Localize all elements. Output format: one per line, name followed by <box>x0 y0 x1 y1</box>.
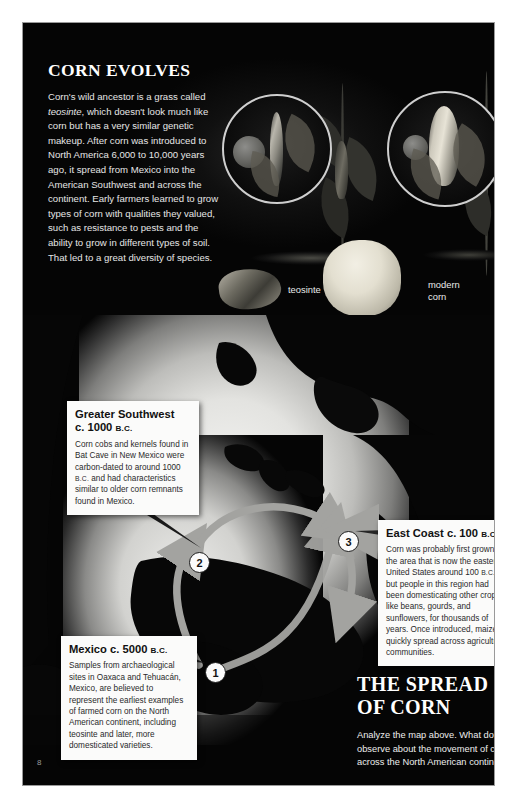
analysis-question: Analyze the map above. What do you obser… <box>357 729 495 770</box>
arrow-east-coast-southward <box>345 543 352 609</box>
callout-title-line1: Greater Southwest <box>75 408 174 420</box>
era-label: B.C. <box>150 646 167 655</box>
callout-title-line1: East Coast c. 100 <box>386 527 481 539</box>
body-segment: Corn cobs and kernels found in Bat Cave … <box>75 440 188 472</box>
callout-title-line2: c. 1000 <box>75 421 115 433</box>
spread-title-line2: OF CORN <box>357 696 451 718</box>
era-label: B.C. <box>115 424 132 433</box>
modern-corn-ear-photo <box>387 91 495 207</box>
callout-mexico: Mexico c. 5000 B.C. Samples from archaeo… <box>61 636 197 760</box>
page-title: CORN EVOLVES <box>48 60 223 81</box>
callout-title-mexico: Mexico c. 5000 B.C. <box>69 643 189 657</box>
callout-body-greater-southwest: Corn cobs and kernels found in Bat Cave … <box>75 439 191 507</box>
arrow-southwest-to-east <box>195 507 329 551</box>
era-label: B.C. <box>75 475 89 482</box>
page-wrapper: CORN EVOLVES Corn's wild ancestor is a g… <box>0 0 517 810</box>
era-label: B.C. <box>481 530 495 539</box>
corn-evolves-body: Corn's wild ancestor is a grass called t… <box>48 90 223 265</box>
callout-greater-southwest: Greater Southwestc. 1000 B.C. Corn cobs … <box>67 401 199 515</box>
teosinte-italic: teosinte <box>48 106 82 117</box>
body-text-part1: Corn's wild ancestor is a grass called <box>48 91 206 102</box>
arrow-mexico-to-east-coast <box>211 537 333 673</box>
label-teosinte: teosinte <box>288 284 321 296</box>
callout-body-east-coast: Corn was probably first grown in the are… <box>386 544 495 658</box>
spread-of-corn-title: THE SPREAD OF CORN <box>357 673 495 719</box>
map-marker-2[interactable]: 2 <box>189 552 210 573</box>
callout-east-coast: East Coast c. 100 B.C. Corn was probably… <box>378 520 495 666</box>
corn-tassel-silhouette <box>423 247 495 263</box>
page-number: 8 <box>37 758 41 767</box>
callout-title-greater-southwest: Greater Southwestc. 1000 B.C. <box>75 408 191 436</box>
body-segment: , but people in this region had been dom… <box>386 568 495 657</box>
body-segment: Corn was probably first grown in the are… <box>386 545 495 577</box>
map-marker-1[interactable]: 1 <box>205 662 226 683</box>
map-marker-3[interactable]: 3 <box>338 531 359 552</box>
body-segment: and had characteristics similar to older… <box>75 474 183 506</box>
top-photo-band: CORN EVOLVES Corn's wild ancestor is a g… <box>23 23 494 323</box>
infographic-page: CORN EVOLVES Corn's wild ancestor is a g… <box>22 22 495 786</box>
teosinte-ear-photo <box>222 94 332 204</box>
spread-title-line1: THE SPREAD <box>357 673 488 695</box>
corn-evolves-text-block: CORN EVOLVES Corn's wild ancestor is a g… <box>48 60 223 265</box>
teosinte-specimen-photo <box>217 265 283 312</box>
corn-ear-silhouette <box>335 141 348 199</box>
label-modern-corn: modern corn <box>428 279 460 303</box>
modern-corn-kernel-photo <box>323 240 401 316</box>
era-label: B.C. <box>481 569 495 576</box>
body-text-part2: , which doesn't look much like corn but … <box>48 106 218 263</box>
callout-title-line1: Mexico c. 5000 <box>69 643 150 655</box>
callout-title-east-coast: East Coast c. 100 B.C. <box>386 527 495 541</box>
callout-body-mexico: Samples from archaeological sites in Oax… <box>69 660 189 751</box>
